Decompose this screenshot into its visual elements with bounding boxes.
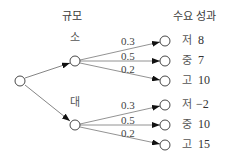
value-small-low: 8 xyxy=(198,34,204,46)
branch-label-large: 대 xyxy=(70,97,80,109)
prob-small-mid: 0.5 xyxy=(121,50,135,62)
prob-large-high: 0.2 xyxy=(121,127,135,139)
small-node xyxy=(70,56,80,66)
demand-large-low: 저 xyxy=(182,99,192,111)
value-large-mid: 10 xyxy=(198,118,210,130)
prob-large-mid: 0.5 xyxy=(121,114,135,126)
value-large-low: −2 xyxy=(196,98,209,110)
large-edges xyxy=(80,106,160,144)
edge-root-small xyxy=(25,63,70,78)
large-node xyxy=(70,120,80,130)
value-large-high: 15 xyxy=(198,138,210,150)
prob-small-high: 0.2 xyxy=(121,63,135,75)
leaf-small-high xyxy=(160,76,170,86)
demand-large-high: 고 xyxy=(182,139,192,151)
header-size: 규모 xyxy=(62,11,82,23)
leaf-small-low xyxy=(160,36,170,46)
edge-root-large xyxy=(25,85,70,121)
prob-small-low: 0.3 xyxy=(121,35,135,47)
leaf-small-mid xyxy=(160,56,170,66)
edge-small-low xyxy=(80,42,160,60)
root-node xyxy=(15,76,25,86)
value-small-high: 10 xyxy=(198,74,210,86)
decision-tree-diagram xyxy=(0,0,229,164)
edge-small-high xyxy=(80,63,160,80)
leaf-large-low xyxy=(160,100,170,110)
demand-large-mid: 중 xyxy=(182,119,192,131)
value-small-mid: 7 xyxy=(198,54,204,66)
demand-small-low: 저 xyxy=(182,35,192,47)
small-edges xyxy=(80,42,160,80)
branch-label-small: 소 xyxy=(70,32,80,44)
root-edges xyxy=(25,63,70,121)
header-outcome: 수요 성과 xyxy=(173,11,217,23)
edge-large-low xyxy=(80,106,160,124)
leaf-large-high xyxy=(160,140,170,150)
demand-small-high: 고 xyxy=(182,75,192,87)
prob-large-low: 0.3 xyxy=(121,99,135,111)
leaf-large-mid xyxy=(160,120,170,130)
edge-large-high xyxy=(80,127,160,144)
demand-small-mid: 중 xyxy=(182,55,192,67)
